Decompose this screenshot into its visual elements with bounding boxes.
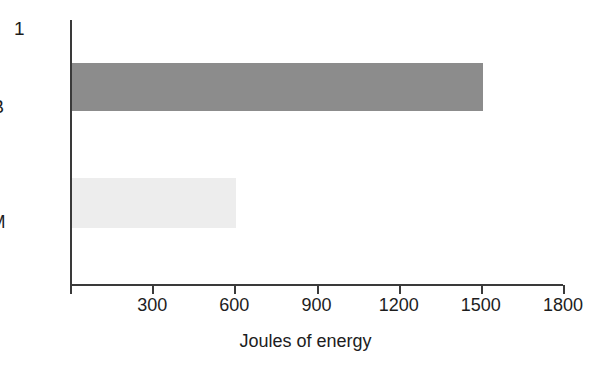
y-axis-line [70,20,72,285]
x-tick [234,285,236,294]
figure-number-label: 1 [14,19,25,38]
plot-area: B M 300600900120015001800 [70,20,563,285]
bar-b [72,63,483,111]
x-tick-label: 900 [282,296,352,314]
x-tick-label: 1800 [528,296,598,314]
x-tick [399,285,401,294]
category-label-b: B [0,98,11,116]
bar-chart-figure: 1 B M 300600900120015001800 Joules of en… [0,0,611,385]
x-tick [317,285,319,294]
x-tick [70,285,72,294]
x-tick-label: 300 [117,296,187,314]
x-tick-label: 600 [199,296,269,314]
category-label-m: M [0,213,11,231]
bar-m [72,178,236,228]
x-tick [152,285,154,294]
x-tick [563,285,565,294]
x-tick [481,285,483,294]
x-tick-label: 1200 [364,296,434,314]
x-axis-title: Joules of energy [0,332,611,350]
x-tick-label: 1500 [446,296,516,314]
